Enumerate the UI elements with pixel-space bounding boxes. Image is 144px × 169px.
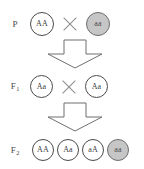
generation-label-f2: F2 [0, 146, 30, 155]
cross-symbol-f1 [57, 75, 81, 99]
organism-group-f1: Aa Aa [30, 75, 144, 99]
genotype-label: aA [88, 146, 98, 154]
generation-label-f1-subscript: 1 [16, 85, 19, 92]
genotype-label: aa [94, 20, 101, 28]
generation-label-f2-subscript: 2 [16, 149, 19, 156]
organism-f2-offspring-4: aa [107, 139, 129, 161]
genotype-label: aa [114, 146, 121, 154]
genetics-cross-diagram: P AA aa F1 Aa Aa [0, 0, 144, 169]
generation-label-p-text: P [12, 19, 17, 29]
generation-row-f2: F2 AA Aa aA aa [0, 136, 144, 164]
genotype-label: AA [36, 20, 48, 28]
generation-row-p: P AA aa [0, 10, 144, 38]
down-arrow-icon-f1-to-f2 [46, 102, 104, 132]
organism-group-p: AA aa [30, 12, 144, 36]
generation-label-f1: F1 [0, 82, 30, 91]
organism-f2-offspring-3: aA [82, 139, 104, 161]
organism-p-parent-1: AA [30, 12, 54, 36]
genotype-label: Aa [37, 83, 47, 91]
organism-f1-offspring-2: Aa [85, 75, 108, 98]
organism-group-f2: AA Aa aA aa [30, 139, 144, 161]
organism-f2-offspring-1: AA [32, 139, 54, 161]
generation-label-p: P [0, 20, 30, 29]
cross-symbol-p [58, 12, 82, 36]
genotype-label: Aa [92, 83, 102, 91]
down-arrow-icon-p-to-f1 [46, 39, 104, 69]
generation-row-f1: F1 Aa Aa [0, 73, 144, 100]
organism-f2-offspring-2: Aa [57, 139, 79, 161]
genotype-label: AA [37, 146, 49, 154]
genotype-label: Aa [63, 146, 73, 154]
organism-f1-offspring-1: Aa [30, 75, 53, 98]
organism-p-parent-2: aa [86, 12, 110, 36]
